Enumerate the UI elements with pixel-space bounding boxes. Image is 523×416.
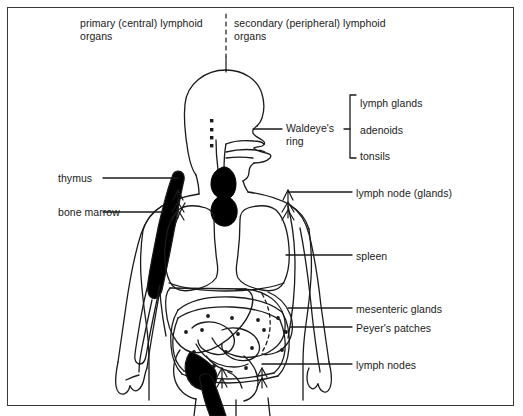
chin-profile (243, 163, 254, 181)
header-secondary-lymphoid-organs: secondary (peripheral) lymphoid organs (234, 17, 404, 42)
label-peyers-patches: Peyer's patches (356, 322, 506, 335)
cervical-lymph-node-dots (210, 119, 213, 147)
palate-line (226, 141, 264, 144)
stomach-outline (212, 289, 285, 357)
left-leg-outline (194, 399, 196, 416)
waldeyer-bracket (350, 95, 356, 158)
transverse-colon-top (178, 297, 282, 312)
label-bone-marrow: bone marrow (58, 206, 128, 219)
lower-oral-line (226, 157, 253, 158)
right-hand-fingers (307, 368, 318, 389)
right-shoulder-outline (248, 192, 309, 229)
neck-back-outline (196, 175, 199, 194)
neck-front-outline (243, 181, 248, 192)
left-hand-thumb-crease (126, 375, 139, 380)
right-lung (236, 206, 289, 291)
label-adenoids: adenoids (360, 124, 490, 137)
label-lymph-node-glands: lymph node (glands) (356, 187, 506, 200)
label-lymph-glands: lymph glands (360, 97, 490, 110)
right-leg-outline (268, 398, 270, 416)
left-hand-outline (116, 362, 130, 394)
label-mesenteric-glands: mesenteric glands (356, 303, 506, 316)
diagram-page: primary (central) lymphoid organs second… (0, 0, 523, 416)
small-intestine-coil-2 (222, 328, 260, 361)
label-tonsils: tonsils (360, 150, 490, 163)
right-hand-outline (318, 362, 331, 392)
transverse-colon-bottom (178, 307, 280, 320)
head-back-outline (184, 70, 226, 175)
diaphragm-line (169, 283, 284, 291)
thymus-solid (211, 167, 237, 226)
label-spleen: spleen (356, 250, 476, 263)
liver-top-edge (170, 288, 246, 289)
head-top-front-outline (226, 70, 264, 126)
right-pelvis-outline (244, 356, 258, 401)
label-waldeyers-ring: Waldeye's ring (286, 122, 346, 147)
label-lymph-nodes: lymph nodes (356, 359, 506, 372)
small-intestine-coil-1 (192, 322, 234, 355)
pubic-bone-line (228, 372, 242, 388)
header-primary-lymphoid-organs: primary (central) lymphoid organs (80, 17, 220, 42)
right-axillary-lymph-nodes (282, 190, 294, 220)
label-thymus: thymus (58, 172, 128, 185)
